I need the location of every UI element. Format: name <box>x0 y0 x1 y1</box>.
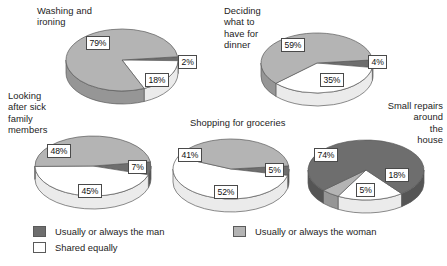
pct-label-groceries-woman: 41% <box>178 148 202 162</box>
pct-label-dinner-woman: 59% <box>281 38 305 52</box>
pie-title-shopping-for-groceries: Shopping for groceries <box>190 117 320 128</box>
legend-item-woman: Usually or always the woman <box>233 226 376 237</box>
pct-label-groceries-shared: 52% <box>214 185 238 199</box>
legend-label-shared: Shared equally <box>55 242 118 253</box>
pie-chart-panel: Washing and ironing 79% 2% 18% Deciding … <box>0 0 447 266</box>
pct-label-washing-shared: 18% <box>145 73 169 87</box>
pct-label-washing-man: 2% <box>178 55 197 69</box>
pct-label-sickfamily-woman: 48% <box>47 144 71 158</box>
legend-swatch-woman <box>233 226 246 237</box>
chart-legend: Usually or always the man Shared equally… <box>0 222 447 266</box>
pct-label-sickfamily-man: 7% <box>128 160 147 174</box>
pct-label-repairs-man: 74% <box>314 148 338 162</box>
pct-label-repairs-shared: 18% <box>385 168 409 182</box>
legend-label-woman: Usually or always the woman <box>255 226 376 237</box>
pct-label-groceries-man: 5% <box>265 163 284 177</box>
legend-swatch-shared <box>33 242 46 253</box>
legend-swatch-man <box>33 226 46 237</box>
legend-label-man: Usually or always the man <box>55 226 164 237</box>
pct-label-washing-woman: 79% <box>86 36 110 50</box>
legend-item-man: Usually or always the man <box>33 226 164 237</box>
pct-label-sickfamily-shared: 45% <box>78 184 102 198</box>
pct-label-repairs-woman: 5% <box>356 183 375 197</box>
pct-label-dinner-shared: 35% <box>320 73 344 87</box>
pie-deciding-dinner <box>258 25 376 109</box>
pie-title-looking-after-sick-family: Looking after sick family members <box>8 90 74 136</box>
pct-label-dinner-man: 4% <box>368 55 387 69</box>
pie-washing-and-ironing <box>63 20 181 106</box>
legend-item-shared: Shared equally <box>33 242 118 253</box>
